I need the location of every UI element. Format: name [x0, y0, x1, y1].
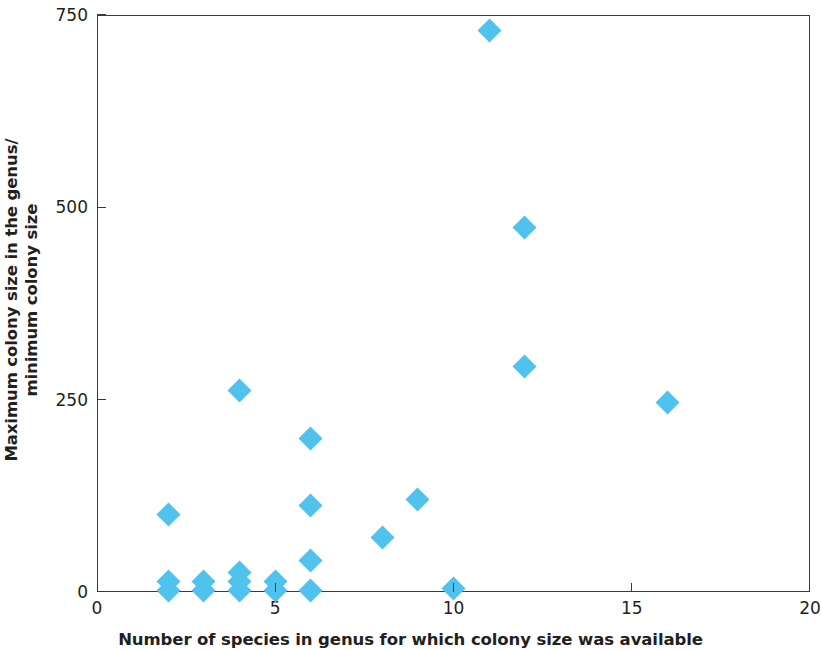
data-point: [513, 355, 537, 379]
data-point: [370, 525, 394, 549]
x-axis-tick-label: 10: [424, 600, 484, 617]
x-axis-tick-mark: [453, 583, 454, 592]
data-point-layer: [97, 15, 810, 592]
x-axis-tick-label: 0: [67, 600, 127, 617]
data-point: [655, 391, 679, 415]
data-point: [513, 215, 537, 239]
y-axis-tick-mark: [97, 399, 106, 400]
x-axis-tick-mark: [275, 583, 276, 592]
plot-area: [97, 15, 810, 592]
y-axis-tick-mark: [97, 14, 106, 15]
data-point: [299, 426, 323, 450]
data-point: [299, 548, 323, 572]
data-point: [406, 488, 430, 512]
x-axis-tick-label: 20: [780, 600, 821, 617]
y-axis-tick-mark: [97, 207, 106, 208]
x-axis-title: Number of species in genus for which col…: [0, 630, 821, 649]
data-point: [156, 502, 180, 526]
scatter-chart-figure: Maximum colony size in the genus/ minimu…: [0, 0, 821, 650]
x-axis-tick-label: 15: [602, 600, 662, 617]
data-point: [299, 494, 323, 518]
x-axis-tick-mark: [631, 583, 632, 592]
data-point: [228, 378, 252, 402]
data-point: [477, 18, 501, 42]
